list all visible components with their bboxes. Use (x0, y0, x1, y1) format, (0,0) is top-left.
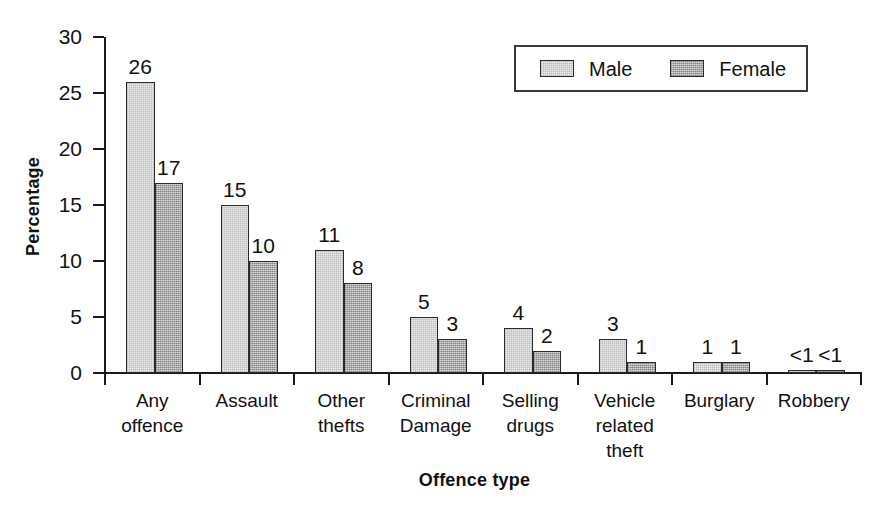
bar-value-label: 11 (307, 224, 351, 245)
y-axis-tick-label: 0 (36, 362, 82, 383)
bar-value-label: 15 (213, 179, 257, 200)
y-axis-tick-label: 5 (36, 306, 82, 327)
x-axis-tick (860, 374, 862, 385)
x-axis-category-label: Burglary (669, 388, 770, 413)
bar-value-label: 3 (591, 313, 635, 334)
y-axis-line (104, 37, 106, 374)
y-axis-tick (93, 92, 104, 94)
bar-female (627, 362, 656, 373)
x-axis-tick (482, 374, 484, 385)
x-axis-category-label: Vehicle related theft (575, 388, 676, 463)
x-axis-category-label: Selling drugs (480, 388, 581, 438)
legend-label-male: Male (589, 59, 632, 79)
x-axis-category-label: Other thefts (291, 388, 392, 438)
x-axis-tick (199, 374, 201, 385)
x-axis-tick (104, 374, 106, 385)
bar-value-label: 26 (118, 56, 162, 77)
x-axis-tick (766, 374, 768, 385)
bar-female (438, 339, 467, 373)
y-axis-tick (93, 316, 104, 318)
bar-female (344, 283, 373, 373)
y-axis-tick-label: 25 (36, 82, 82, 103)
y-axis-tick-label: 30 (36, 26, 82, 47)
bar-value-label: 5 (402, 291, 446, 312)
bar-female (722, 362, 751, 373)
x-axis-tick (577, 374, 579, 385)
bar-female (155, 183, 184, 373)
bar-value-label: 1 (619, 336, 663, 357)
bar-female (816, 370, 845, 374)
bar-value-label: 1 (714, 336, 758, 357)
legend-entry-male: Male (540, 59, 632, 79)
x-axis-title: Offence type (0, 470, 879, 491)
bar-value-label: 3 (430, 313, 474, 334)
bar-value-label: 10 (241, 235, 285, 256)
x-axis-tick (671, 374, 673, 385)
y-axis-tick (93, 36, 104, 38)
bar-value-label: 2 (525, 325, 569, 346)
x-axis-category-label: Any offence (102, 388, 203, 438)
y-axis-title: Percentage (23, 117, 44, 297)
x-axis-tick (293, 374, 295, 385)
legend-label-female: Female (719, 59, 786, 79)
x-axis-category-label: Assault (197, 388, 298, 413)
bar-value-label: 8 (336, 257, 380, 278)
legend: Male Female (514, 45, 808, 92)
legend-entry-female: Female (670, 59, 786, 79)
bar-female (533, 351, 562, 373)
bar-male (221, 205, 250, 373)
legend-swatch-female-icon (670, 60, 704, 77)
bar-male (126, 82, 155, 373)
y-axis-tick (93, 204, 104, 206)
bar-value-label: <1 (808, 344, 852, 365)
bar-female (249, 261, 278, 373)
y-axis-tick (93, 372, 104, 374)
bar-male (693, 362, 722, 373)
bar-value-label: 17 (147, 157, 191, 178)
x-axis-category-label: Robbery (764, 388, 865, 413)
y-axis-tick (93, 148, 104, 150)
bar-male (788, 370, 817, 374)
bar-value-label: 4 (496, 302, 540, 323)
bar-chart: 051015202530 Percentage Offence type 261… (0, 0, 879, 520)
legend-swatch-male-icon (540, 60, 574, 77)
y-axis-tick (93, 260, 104, 262)
x-axis-category-label: Criminal Damage (386, 388, 487, 438)
x-axis-tick (388, 374, 390, 385)
